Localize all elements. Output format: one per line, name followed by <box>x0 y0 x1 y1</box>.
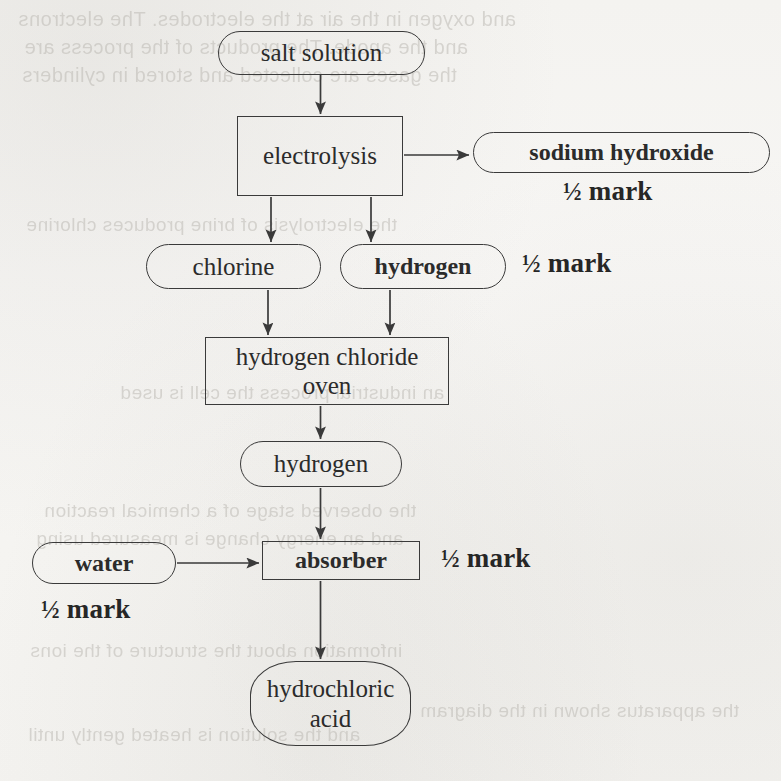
node-label: salt solution <box>261 38 383 68</box>
bleed-through-line: the observed stage of a chemical reactio… <box>44 500 416 522</box>
bleed-through-line: information about the structure of the i… <box>30 640 402 662</box>
node-label: hydrogen chlorideoven <box>236 342 419 401</box>
mark-fraction: ½ <box>563 178 582 205</box>
mark-fraction: ½ <box>522 250 541 277</box>
flowchart-node-chlorine: chlorine <box>146 244 321 289</box>
node-label: water <box>75 549 134 577</box>
flowchart-node-salt-solution: salt solution <box>218 31 425 75</box>
node-label: electrolysis <box>263 141 377 171</box>
mark-word: mark <box>589 176 653 206</box>
mark-word: mark <box>548 248 612 278</box>
flowchart-node-hydrogen-top: hydrogen <box>340 244 506 289</box>
half-mark-annotation: ½ mark <box>41 594 131 625</box>
flowchart-page: and oxygen in the air at the electrodes.… <box>0 0 781 781</box>
node-label: hydrogen <box>274 449 368 479</box>
node-label: hydrogen <box>375 252 472 280</box>
mark-fraction: ½ <box>41 596 60 623</box>
flowchart-node-hydrogen-chloride-oven: hydrogen chlorideoven <box>205 337 449 405</box>
flowchart-node-water: water <box>32 542 176 584</box>
node-label: chlorine <box>193 252 275 282</box>
bleed-through-line: the apparatus shown in the diagram <box>420 700 739 722</box>
bleed-through-line: and oxygen in the air at the electrodes.… <box>18 8 516 31</box>
mark-word: mark <box>67 594 131 624</box>
node-label: absorber <box>295 546 387 574</box>
flowchart-node-hydrochloric-acid: hydrochloricacid <box>250 661 411 746</box>
half-mark-annotation: ½ mark <box>441 543 531 574</box>
flowchart-node-sodium-hydroxide: sodium hydroxide <box>473 132 770 173</box>
mark-fraction: ½ <box>441 545 460 572</box>
flowchart-node-hydrogen-bottom: hydrogen <box>240 441 402 487</box>
flowchart-node-absorber: absorber <box>262 541 420 580</box>
flowchart-node-electrolysis: electrolysis <box>237 116 403 196</box>
half-mark-annotation: ½ mark <box>522 248 612 279</box>
node-label: hydrochloricacid <box>267 674 395 733</box>
mark-word: mark <box>467 543 531 573</box>
half-mark-annotation: ½ mark <box>563 176 653 207</box>
bleed-through-line: the electrolysis of brine produces chlor… <box>26 214 397 236</box>
node-label: sodium hydroxide <box>529 138 713 166</box>
